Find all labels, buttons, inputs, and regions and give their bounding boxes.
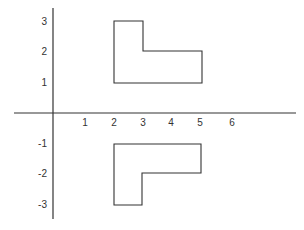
y-tick-label-neg2: -2 [38,168,47,179]
upper-l-shape [114,21,202,83]
y-tick-label-1: 1 [41,77,47,88]
x-tick-label-3: 3 [140,117,146,128]
y-tick-label-neg1: -1 [38,138,47,149]
x-tick-label-1: 1 [82,117,88,128]
y-tick-label-3: 3 [41,16,47,27]
coordinate-plane: 1 2 3 4 5 6 3 2 1 -1 -2 -3 [0,0,304,230]
x-tick-label-4: 4 [168,117,174,128]
x-tick-label-5: 5 [197,117,203,128]
y-tick-label-neg3: -3 [38,199,47,210]
lower-l-shape [114,144,201,205]
y-tick-label-2: 2 [41,46,47,57]
x-tick-label-6: 6 [229,117,235,128]
x-tick-label-2: 2 [111,117,117,128]
